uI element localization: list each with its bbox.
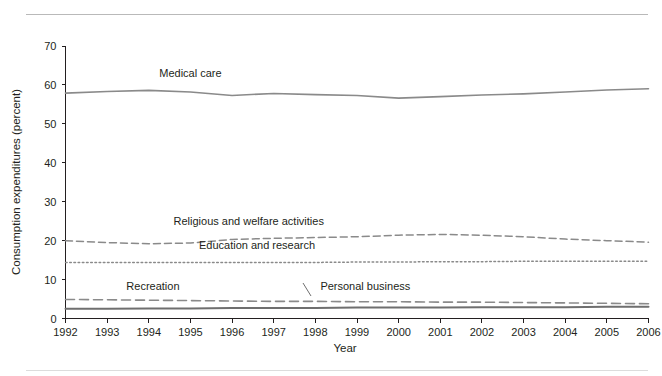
x-axis-tick-label: 2006 [636,326,660,338]
y-axis-tick-label: 60 [44,79,56,91]
series-line-religious-and-welfare-activities [66,234,649,243]
chart-plot-area: 010203040506070 199219931994199519961997… [0,0,662,376]
x-axis-ticks [66,319,649,323]
series-line-recreation [66,299,649,303]
series-line-personal-business [66,307,649,309]
x-axis-tick-label: 2003 [511,326,535,338]
y-axis-tick-label: 30 [44,196,56,208]
x-axis-tick-label: 2005 [595,326,619,338]
cropped-title-remnant [150,0,450,3]
y-axis-tick-labels: 010203040506070 [44,40,56,325]
series-line-medical-care [66,89,649,98]
y-axis-tick-label: 40 [44,157,56,169]
chart-annotations: Medical careReligious and welfare activi… [126,67,410,292]
x-axis-tick-label: 2004 [553,326,577,338]
chart-axes [66,46,649,319]
x-axis-title: Year [333,342,356,354]
y-axis-tick-label: 10 [44,274,56,286]
series-inline-label-personal-business: Personal business [320,280,410,292]
x-axis-tick-label: 1997 [261,326,285,338]
y-axis-title: Consumption expenditures (percent) [10,89,22,275]
y-axis-tick-label: 50 [44,118,56,130]
y-axis-tick-label: 20 [44,235,56,247]
series-line-education-and-research [66,261,649,262]
x-axis-tick-label: 2001 [428,326,452,338]
x-axis-tick-label: 1995 [178,326,202,338]
series-inline-label-education-and-research: Education and research [199,239,315,251]
x-axis-tick-label: 2000 [386,326,410,338]
personal-business-leader-line [303,283,311,296]
chart-series-group [66,89,649,309]
series-inline-label-recreation: Recreation [126,280,179,292]
x-axis-tick-label: 1996 [220,326,244,338]
x-axis-tick-label: 1993 [95,326,119,338]
figure: 010203040506070 199219931994199519961997… [0,0,662,376]
x-axis-tick-label: 1999 [345,326,369,338]
x-axis-tick-label: 1992 [53,326,77,338]
x-axis-tick-labels: 1992199319941995199619971998199920002001… [53,326,660,338]
y-axis-tick-label: 0 [50,313,56,325]
series-inline-label-medical-care: Medical care [159,67,221,79]
x-axis-tick-label: 2002 [470,326,494,338]
x-axis-tick-label: 1998 [303,326,327,338]
y-axis-tick-label: 70 [44,40,56,52]
x-axis-tick-label: 1994 [137,326,161,338]
series-inline-label-religious-and-welfare-activities: Religious and welfare activities [174,215,325,227]
y-axis-ticks [62,46,66,319]
